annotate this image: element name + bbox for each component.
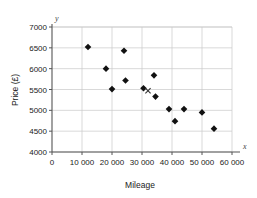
- tick-marks: [49, 27, 232, 155]
- y-tick-label: 5500: [29, 86, 47, 95]
- y-axis-title: Price (£): [10, 74, 20, 106]
- data-point: [166, 106, 173, 113]
- x-tick-label: 10 000: [70, 158, 95, 167]
- y-tick-label: 5000: [29, 106, 47, 115]
- x-tick-label: 0: [50, 158, 55, 167]
- x-tick-label: 50 000: [190, 158, 215, 167]
- data-point: [103, 65, 110, 72]
- data-points: [85, 44, 218, 132]
- y-axis-symbol: y: [54, 14, 59, 23]
- data-point: [85, 44, 92, 51]
- y-tick-label: 6500: [29, 44, 47, 53]
- data-point: [122, 77, 129, 84]
- data-point: [152, 93, 159, 100]
- x-tick-label: 20 000: [100, 158, 125, 167]
- data-point: [121, 47, 128, 54]
- x-axis-title: Mileage: [125, 180, 155, 190]
- y-tick-label: 6000: [29, 65, 47, 74]
- chart-annotations: [145, 88, 150, 93]
- x-axis-symbol: x: [242, 142, 247, 151]
- y-tick-labels: 4000450050005500600065007000: [29, 23, 47, 157]
- x-tick-label: 60 000: [220, 158, 245, 167]
- data-point: [151, 72, 158, 79]
- y-tick-label: 4000: [29, 148, 47, 157]
- data-point: [109, 86, 116, 93]
- x-tick-label: 30 000: [130, 158, 155, 167]
- data-point: [181, 106, 188, 113]
- data-point: [172, 118, 179, 125]
- y-tick-label: 4500: [29, 127, 47, 136]
- scatter-chart: 4000450050005500600065007000 010 00020 0…: [0, 0, 257, 198]
- chart-canvas: 4000450050005500600065007000 010 00020 0…: [0, 0, 257, 198]
- x-tick-labels: 010 00020 00030 00040 00050 00060 000: [50, 158, 245, 167]
- y-tick-label: 7000: [29, 23, 47, 32]
- annotation-cross-marker: [145, 88, 150, 93]
- x-tick-label: 40 000: [160, 158, 185, 167]
